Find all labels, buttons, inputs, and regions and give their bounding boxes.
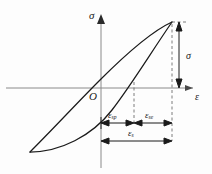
total-strain-arrow-right bbox=[164, 138, 172, 144]
total-strain-label: εs bbox=[128, 128, 134, 138]
plastic-strain-subscript: sp bbox=[112, 114, 117, 120]
total-strain-subscript: s bbox=[132, 132, 134, 138]
stress-amplitude-label: σ bbox=[186, 50, 191, 62]
hysteresis-loop-figure: σ ε O σ εsp εse εs bbox=[0, 0, 212, 174]
stress-amplitude-dimension bbox=[176, 22, 182, 88]
figure-canvas bbox=[0, 0, 212, 174]
strain-axis-arrowhead bbox=[185, 85, 193, 91]
elastic-strain-label: εse bbox=[145, 110, 153, 120]
stress-axis-label: σ bbox=[89, 9, 94, 21]
strain-axis-label: ε bbox=[195, 91, 199, 102]
stress-dimension-arrow-down bbox=[176, 79, 182, 88]
elastic-strain-arrow-left bbox=[134, 120, 142, 126]
elastic-strain-arrow-right bbox=[164, 120, 172, 126]
axes-group bbox=[6, 14, 193, 168]
stress-axis-arrowhead bbox=[97, 14, 105, 24]
elastic-strain-subscript: se bbox=[149, 114, 154, 120]
plastic-strain-label: εsp bbox=[108, 110, 117, 120]
origin-label: O bbox=[89, 90, 97, 102]
total-strain-dimension bbox=[101, 138, 172, 144]
total-strain-arrow-left bbox=[101, 138, 109, 144]
stress-amplitude-symbol: σ bbox=[186, 50, 191, 61]
stress-dimension-arrow-up bbox=[176, 22, 182, 31]
